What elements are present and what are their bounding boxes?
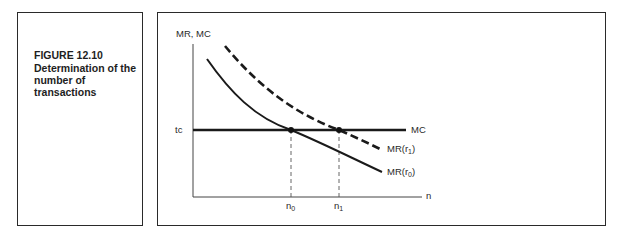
n1-tick-label: n1 <box>334 200 343 212</box>
mr-r0-label: MR(r0) <box>387 166 415 178</box>
mc-label: MC <box>411 124 426 135</box>
y-axis-label: MR, MC <box>176 28 211 39</box>
mr-r0-curve <box>207 59 382 172</box>
tc-tick-label: tc <box>175 124 182 135</box>
x-axis-label: n <box>426 190 431 201</box>
n0-tick-label: n0 <box>286 200 295 212</box>
equilibrium-point-n1 <box>336 127 342 133</box>
mr-r1-label: MR(r1) <box>387 143 415 155</box>
equilibrium-point-n0 <box>288 127 294 133</box>
chart-plot <box>0 0 620 251</box>
